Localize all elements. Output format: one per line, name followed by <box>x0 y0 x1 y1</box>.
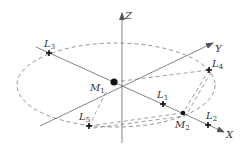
lagrange-point-l3-label: L3 <box>43 38 55 51</box>
lagrange-point-l2-label: L2 <box>205 110 217 123</box>
y-axis <box>40 43 213 126</box>
lagrange-point-l4-label: L4 <box>211 58 224 71</box>
body-m1-label: M1 <box>89 82 105 95</box>
lagrange-point-l2 <box>205 122 211 128</box>
lagrange-points-diagram: Z X Y M1 M2 L1 L2 L3 L4 L5 <box>0 0 246 150</box>
z-axis-label: Z <box>124 10 133 21</box>
triangle-lines <box>89 70 211 128</box>
body-m2-label: M2 <box>174 119 190 132</box>
body-m1 <box>111 79 118 86</box>
x-axis-label: X <box>225 129 234 140</box>
lagrange-point-l1-label: L1 <box>156 89 168 102</box>
body-m2 <box>181 111 186 116</box>
y-axis-label: Y <box>215 43 223 54</box>
lagrange-point-l5-label: L5 <box>78 111 90 124</box>
